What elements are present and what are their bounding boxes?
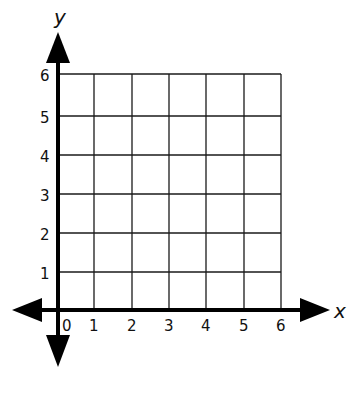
x-axis-title: x <box>333 299 346 323</box>
y-tick-6: 6 <box>40 67 50 85</box>
y-axis-title: y <box>53 5 67 29</box>
x-tick-1: 1 <box>89 317 99 335</box>
y-axis-down-arrow-icon <box>46 335 70 367</box>
x-tick-4: 4 <box>201 317 211 335</box>
coordinate-plane: y x 1 2 3 4 5 6 0 1 2 3 4 5 6 <box>0 0 358 394</box>
x-axis-left-arrow-icon <box>12 298 42 322</box>
y-tick-2: 2 <box>40 226 50 244</box>
y-tick-3: 3 <box>40 187 50 205</box>
x-tick-2: 2 <box>127 317 137 335</box>
x-tick-0: 0 <box>62 317 72 335</box>
y-axis-up-arrow-icon <box>46 32 70 63</box>
x-axis-right-arrow-icon <box>300 298 330 322</box>
x-tick-3: 3 <box>164 317 174 335</box>
y-tick-labels: 1 2 3 4 5 6 <box>40 67 50 283</box>
y-tick-5: 5 <box>40 109 50 127</box>
y-tick-1: 1 <box>40 265 50 283</box>
grid-vertical-lines <box>94 74 281 310</box>
x-tick-6: 6 <box>276 317 286 335</box>
x-tick-5: 5 <box>239 317 249 335</box>
x-tick-labels: 0 1 2 3 4 5 6 <box>62 317 286 335</box>
y-tick-4: 4 <box>40 148 50 166</box>
